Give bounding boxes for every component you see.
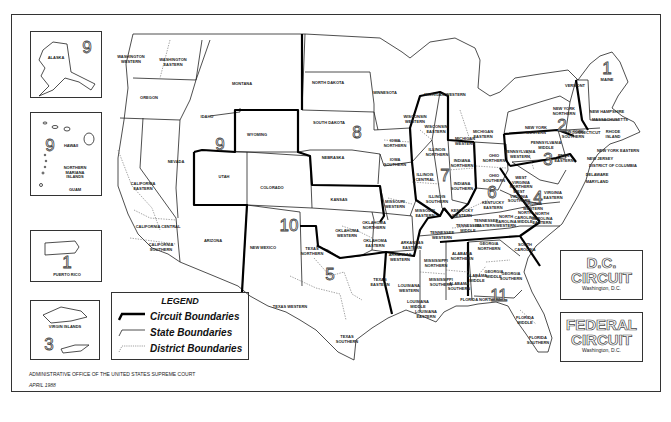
district-label: PENN. EASTERN <box>554 154 573 163</box>
dc-circuit-title-1: D.C. <box>561 255 642 270</box>
district-label: NORTH CAROLINA WESTERN <box>495 215 516 229</box>
puerto-rico-circuit-number: 1 <box>62 253 71 273</box>
legend-item-circuit: Circuit Boundaries <box>118 309 239 323</box>
circuit-number: 8 <box>352 123 361 143</box>
district-label: COLORADO <box>260 186 283 191</box>
dc-circuit-title-2: CIRCUIT <box>561 270 642 285</box>
district-label: OKLAHOMA NORTHERN <box>362 221 386 230</box>
federal-circuit-title-1: FEDERAL <box>561 317 642 332</box>
district-label: GEORGIA NORTHERN <box>478 242 501 251</box>
puerto-rico-inset: 1 PUERTO RICO <box>30 230 102 282</box>
virgin-islands-shape-icon <box>31 301 99 359</box>
district-label: OREGON <box>140 96 158 101</box>
district-label: VERMONT <box>565 84 585 89</box>
district-label: MICHIGAN EASTERN <box>473 130 493 139</box>
marianas-label: NORTHERN MARIANA ISLANDS <box>64 166 87 180</box>
district-label: SOUTH CAROLINA <box>514 243 535 252</box>
virgin-islands-circuit-number: 3 <box>44 335 53 355</box>
thick-line-icon <box>118 311 146 321</box>
dotted-line-icon <box>118 343 146 353</box>
legend-label: District Boundaries <box>150 343 242 354</box>
district-label: ALABAMA SOUTHERN <box>448 282 470 291</box>
circuit-number: 2 <box>557 116 566 136</box>
district-label: MONTANA <box>232 82 252 87</box>
legend: LEGEND Circuit Boundaries State Boundari… <box>111 292 249 360</box>
alaska-inset: ALASKA 9 <box>30 31 102 98</box>
legend-label: Circuit Boundaries <box>150 311 239 322</box>
pacific-islands-icon <box>31 113 101 195</box>
district-label: ARKANSAS EASTERN <box>401 241 424 250</box>
district-label: IDAHO <box>201 115 214 120</box>
legend-label: State Boundaries <box>150 327 232 338</box>
district-label: PENNSYLVANIA WESTERN <box>505 150 536 159</box>
district-label: OKLAHOMA EASTERN <box>363 239 387 248</box>
district-label: MISSOURI EASTERN <box>415 209 435 218</box>
circuit-number: 4 <box>533 188 542 208</box>
district-label: FLORIDA SOUTHERN <box>527 336 549 345</box>
district-label: WASHINGTON WESTERN <box>117 55 144 64</box>
legend-title: LEGEND <box>112 296 248 306</box>
district-label: OKLAHOMA WESTERN <box>335 229 359 238</box>
guam-label: GUAM <box>69 188 81 193</box>
federal-circuit-box: FEDERAL CIRCUIT Washington, D.C. <box>560 312 643 362</box>
circuit-number: 11 <box>490 286 508 306</box>
district-label: RHODE ISLAND <box>606 130 621 139</box>
district-label: IOWA NORTHERN <box>384 139 407 148</box>
legend-item-state: State Boundaries <box>118 325 232 339</box>
district-label: ILLINOIS NORTHERN <box>426 148 449 157</box>
district-label: DISTRICT OF COLUMBIA <box>589 164 637 169</box>
footer-date: APRIL 1988 <box>29 382 56 388</box>
district-label: MISSISSIPPI NORTHERN <box>424 259 448 268</box>
hawaii-label: HAWAII <box>64 144 78 149</box>
district-label: FLORIDA MIDDLE <box>516 316 534 325</box>
district-label: UTAH <box>219 175 230 180</box>
district-label: NEW YORK WESTERN <box>525 126 547 135</box>
thin-line-icon <box>118 327 146 337</box>
alaska-circuit-number: 9 <box>82 38 91 58</box>
circuit-number: 10 <box>280 216 299 236</box>
district-label: KANSAS <box>331 198 348 203</box>
district-label: CALIFORNIA EASTERN <box>131 182 156 191</box>
puerto-rico-label: PUERTO RICO <box>53 273 81 278</box>
district-label: VIRGINIA EASTERN <box>543 191 562 200</box>
district-label: MARYLAND <box>586 180 609 185</box>
district-label: OHIO NORTHERN <box>483 154 506 163</box>
district-label: CONNECTICUT <box>571 131 600 136</box>
pacific-circuit-number: 9 <box>45 136 54 156</box>
district-label: DELAWARE <box>586 173 609 178</box>
district-label: TEXAS EASTERN <box>370 278 389 287</box>
district-label: NEW JERSEY <box>587 157 613 162</box>
district-label: WEST VIRGINIA SOUTHERN <box>508 190 530 204</box>
district-label: CALIFORNIA SOUTHERN <box>149 243 174 252</box>
district-label: MINNESOTA <box>373 91 397 96</box>
district-label: WYOMING <box>247 133 267 138</box>
district-label: MISSOURI WESTERN <box>385 200 405 209</box>
pacific-inset: 9 HAWAII NORTHERN MARIANA ISLANDS GUAM <box>30 112 102 196</box>
district-label: CALIFORNIA CENTRAL <box>136 225 181 230</box>
district-label: TEXAS WESTERN <box>273 305 307 310</box>
legend-item-district: District Boundaries <box>118 341 242 355</box>
virgin-islands-label: VIRGIN ISLANDS <box>49 325 81 330</box>
district-label: NEW HAMPSHIRE <box>590 110 624 115</box>
district-label: KENTUCKY WESTERN <box>451 209 473 218</box>
district-label: LOUISIANA EASTERN <box>415 310 437 319</box>
district-label: WISCONSIN WESTERN <box>403 115 426 124</box>
district-label: MICHIGAN WESTERN <box>455 137 475 146</box>
alaska-label: ALASKA <box>48 56 65 61</box>
district-label: IOWA SOUTHERN <box>384 158 406 167</box>
district-label: WISCONSIN EASTERN <box>424 125 447 134</box>
district-label: INDIANA SOUTHERN <box>451 182 473 191</box>
district-label: NEVADA <box>168 160 185 165</box>
district-label: WEST VIRGINIA NORTHERN <box>510 176 533 190</box>
district-label: LOUISIANA MIDDLE <box>407 300 429 309</box>
footer-agency: ADMINISTRATIVE OFFICE OF THE UNITED STAT… <box>29 371 195 377</box>
federal-circuit-title-2: CIRCUIT <box>561 332 642 347</box>
district-label: NEBRASKA <box>322 156 345 161</box>
district-label: TENNESSEE WESTERN <box>430 231 454 240</box>
circuit-number: 9 <box>215 135 224 155</box>
district-label: NEW MEXICO <box>250 246 276 251</box>
district-label: ILLINOIS SOUTHERN <box>426 195 448 204</box>
district-label: ALABAMA NORTHERN <box>451 252 474 261</box>
district-label: ARKANSAS WESTERN <box>389 253 412 262</box>
circuit-number: 7 <box>440 166 449 186</box>
